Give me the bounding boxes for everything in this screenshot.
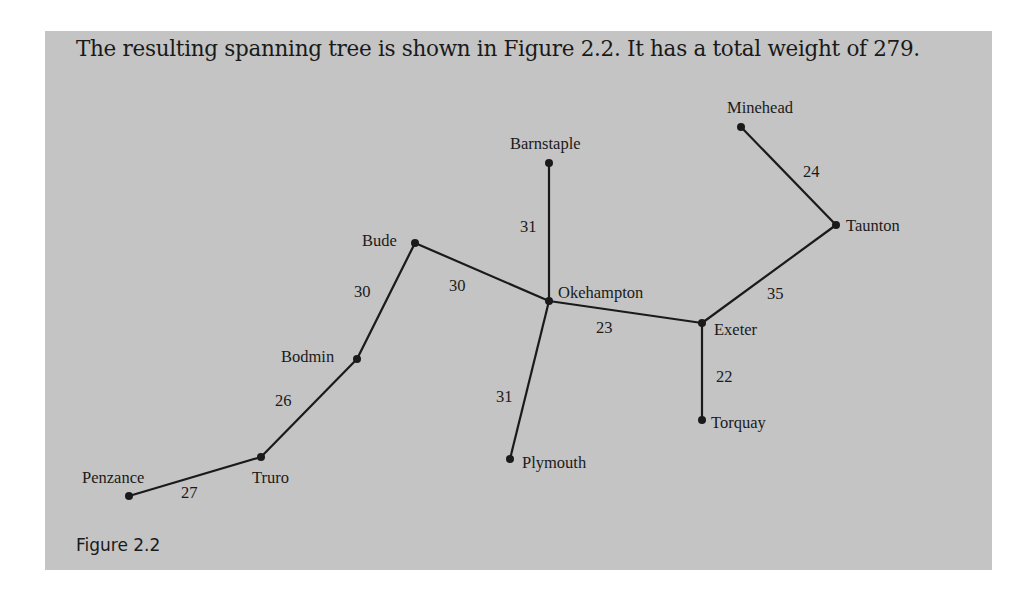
node-label-bude: Bude: [362, 231, 397, 250]
node-label-truro: Truro: [252, 468, 289, 487]
edge-taunton-exeter: [702, 225, 836, 323]
node-penzance: [125, 492, 133, 500]
node-label-exeter: Exeter: [714, 320, 758, 339]
edges-layer: [129, 127, 836, 496]
node-torquay: [698, 416, 706, 424]
node-truro: [257, 453, 265, 461]
node-bude: [411, 239, 419, 247]
edge-weight-label: 23: [596, 318, 613, 337]
edge-weight-label: 26: [275, 391, 292, 410]
labels-layer: 24313030233522312627MineheadBarnstapleTa…: [82, 98, 900, 502]
edge-weight-label: 31: [520, 217, 537, 236]
node-okehampton: [545, 297, 553, 305]
edge-weight-label: 30: [449, 276, 466, 295]
node-bodmin: [353, 355, 361, 363]
node-label-torquay: Torquay: [711, 413, 766, 432]
edge-minehead-taunton: [741, 127, 836, 225]
node-label-penzance: Penzance: [82, 468, 144, 487]
node-barnstaple: [545, 159, 553, 167]
node-label-okehampton: Okehampton: [558, 283, 643, 302]
spanning-tree-diagram: 24313030233522312627MineheadBarnstapleTa…: [0, 0, 1034, 604]
edge-weight-label: 27: [181, 483, 198, 502]
edge-weight-label: 30: [354, 282, 371, 301]
node-exeter: [698, 319, 706, 327]
edge-weight-label: 22: [716, 367, 733, 386]
node-plymouth: [506, 455, 514, 463]
edge-weight-label: 35: [767, 284, 784, 303]
figure-label: Figure 2.2: [76, 535, 160, 555]
edge-okehampton-plymouth: [510, 301, 549, 459]
node-label-minehead: Minehead: [727, 98, 794, 117]
node-taunton: [832, 221, 840, 229]
node-minehead: [737, 123, 745, 131]
nodes-layer: [125, 123, 840, 500]
node-label-bodmin: Bodmin: [281, 347, 334, 366]
edge-bude-bodmin: [357, 243, 415, 359]
node-label-plymouth: Plymouth: [522, 453, 587, 472]
edge-okehampton-exeter: [549, 301, 702, 323]
node-label-taunton: Taunton: [846, 216, 900, 235]
edge-weight-label: 31: [496, 387, 513, 406]
node-label-barnstaple: Barnstaple: [510, 134, 581, 153]
edge-bude-okehampton: [415, 243, 549, 301]
edge-weight-label: 24: [803, 162, 820, 181]
